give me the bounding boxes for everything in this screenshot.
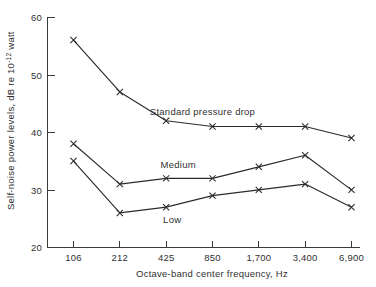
x-axis-title: Octave-band center frequency, Hz	[136, 268, 288, 279]
series-label: Low	[163, 214, 181, 225]
y-tick-label: 60	[31, 12, 42, 23]
series-medium	[70, 141, 354, 193]
series-standard-pressure-drop	[70, 37, 354, 141]
y-axis-ticks	[48, 18, 55, 248]
x-tick-label: 850	[204, 252, 220, 263]
x-tick-label: 6,900	[339, 252, 364, 263]
series-label: Standard pressure drop	[150, 106, 255, 117]
series-line	[74, 40, 352, 138]
x-tick-label: 3,400	[293, 252, 318, 263]
y-axis-tick-labels: 60 50 40 30 20	[31, 12, 42, 253]
data-point-marker	[70, 37, 76, 43]
y-axis-title: Self-noise power levels, dB re 10-12 wat…	[5, 31, 16, 210]
y-tick-label: 40	[31, 127, 42, 138]
data-point-marker	[348, 187, 354, 193]
x-tick-label: 1,700	[246, 252, 271, 263]
data-point-marker	[348, 204, 354, 210]
x-axis-ticks	[74, 241, 352, 248]
series-line	[74, 161, 352, 213]
y-tick-label: 20	[31, 242, 42, 253]
x-tick-label: 212	[112, 252, 128, 263]
x-tick-label: 425	[158, 252, 174, 263]
y-tick-label: 30	[31, 185, 42, 196]
svg-text:Self-noise power levels, dB re: Self-noise power levels, dB re 10-12 wat…	[5, 31, 16, 210]
series-line	[74, 144, 352, 190]
line-chart: Self-noise power levels, dB re 10-12 wat…	[0, 0, 376, 287]
y-axis-title-main: Self-noise power levels, dB re 10	[5, 63, 16, 210]
series-label: Medium	[161, 159, 196, 170]
y-axis-title-tail: watt	[5, 31, 16, 52]
chart-container: Self-noise power levels, dB re 10-12 wat…	[0, 0, 376, 287]
data-point-marker	[117, 89, 123, 95]
y-axis-title-exponent: -12	[5, 52, 12, 62]
y-tick-label: 50	[31, 70, 42, 81]
data-point-marker	[70, 141, 76, 147]
axis-spines	[48, 17, 361, 248]
x-tick-label: 106	[65, 252, 81, 263]
x-axis-tick-labels: 106 212 425 850 1,700 3,400 6,900	[65, 252, 364, 263]
data-point-marker	[70, 158, 76, 164]
series-layer	[70, 37, 354, 216]
series-low	[70, 158, 354, 216]
